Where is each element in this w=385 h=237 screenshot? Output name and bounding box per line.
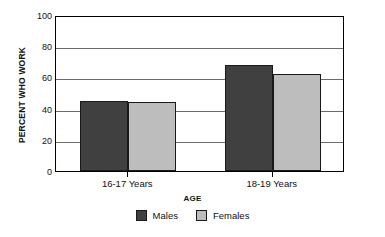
y-axis-tick-labels: 100806040200 xyxy=(26,11,52,177)
plot-area xyxy=(55,16,344,172)
y-axis-tick-label: 100 xyxy=(26,11,52,21)
legend-label: Males xyxy=(153,210,178,221)
x-axis-tick-label: 16-17 Years xyxy=(102,178,153,190)
bar xyxy=(80,101,128,171)
bar xyxy=(273,74,321,172)
x-axis-tick-mark xyxy=(127,172,128,177)
bar xyxy=(128,102,176,171)
bars-layer xyxy=(56,17,343,171)
legend-label: Females xyxy=(213,210,249,221)
x-axis-tick-marks xyxy=(55,172,344,177)
y-axis-tick-label: 20 xyxy=(26,136,52,146)
legend-entry: Females xyxy=(196,210,249,221)
bar xyxy=(225,65,273,171)
bar-chart: PERCENT WHO WORK 100806040200 16-17 Year… xyxy=(0,0,385,237)
chart-legend: MalesFemales xyxy=(0,210,385,221)
legend-entry: Males xyxy=(136,210,178,221)
x-axis-tick-labels: 16-17 Years18-19 Years xyxy=(55,178,344,192)
y-axis-tick-label: 0 xyxy=(26,167,52,177)
x-axis-tick-mark xyxy=(272,172,273,177)
y-axis-tick-label: 60 xyxy=(26,73,52,83)
legend-swatch-icon xyxy=(136,210,147,221)
x-axis-tick-label: 18-19 Years xyxy=(246,178,297,190)
y-axis-tick-label: 80 xyxy=(26,42,52,52)
y-axis-tick-label: 40 xyxy=(26,105,52,115)
legend-swatch-icon xyxy=(196,210,207,221)
x-axis-title: AGE xyxy=(0,194,385,203)
